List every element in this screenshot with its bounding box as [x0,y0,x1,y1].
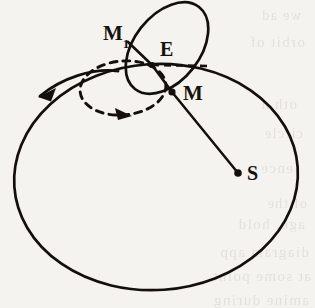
point-m [168,88,175,95]
orbital-epicycle-diagram: M1 E M S [0,0,315,308]
label-m: M [183,81,203,105]
point-s [234,169,242,177]
label-m1: M1 [103,21,129,51]
point-e [149,62,155,68]
figure-root: we adorbit ofoth acircleenceof theage, h… [0,0,315,308]
radius-line-m-to-s [172,92,238,173]
label-s: S [247,162,258,184]
label-e: E [160,38,173,60]
